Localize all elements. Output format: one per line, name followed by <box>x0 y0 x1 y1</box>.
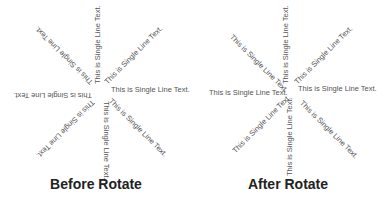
arm-east: This is Single Line Text. <box>298 85 377 93</box>
arm-west: This is Single Line Text. <box>209 89 288 97</box>
panel-caption: After Rotate <box>192 176 384 192</box>
arm-southwest: This is Single Line Text. <box>231 94 292 155</box>
before-rotate-panel: This is Single Line Text. This is Single… <box>0 0 192 200</box>
arm-south: This is Single Line Text. <box>286 97 294 176</box>
arm-north: This is Single Line Text. <box>94 5 102 84</box>
after-rotate-panel: This is Single Line Text. This is Single… <box>192 0 384 200</box>
arm-west: This is Single Line Text. <box>13 91 92 99</box>
arm-north: This is Single Line Text. <box>282 5 290 84</box>
arm-east: This is Single Line Text. <box>111 86 190 94</box>
arm-southeast: This is Single Line Text. <box>107 97 168 158</box>
panel-caption: Before Rotate <box>0 176 192 192</box>
arm-southwest: This is Single Line Text. <box>35 98 96 159</box>
arm-northeast: This is Single Line Text. <box>103 25 164 86</box>
arm-south: This is Single Line Text. <box>102 101 110 180</box>
arm-northwest: This is Single Line Text. <box>34 25 95 86</box>
arm-southeast: This is Single Line Text. <box>298 99 359 160</box>
arm-northeast: This is Single Line Text. <box>293 25 354 86</box>
